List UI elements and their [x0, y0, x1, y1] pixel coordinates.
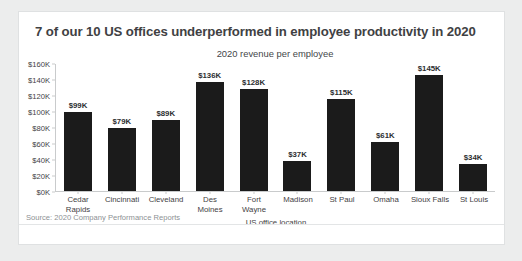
y-axis-tick-label: $120K — [28, 92, 50, 101]
bar-cell: $128K — [232, 64, 276, 191]
x-axis-tick-mark — [385, 191, 386, 194]
bar-value-label: $34K — [451, 153, 495, 162]
bar[interactable] — [459, 164, 487, 191]
bar-value-label: $115K — [319, 88, 363, 97]
bar-value-label: $99K — [56, 101, 100, 110]
bar[interactable] — [240, 89, 268, 191]
x-axis-category-label: St Louis — [452, 195, 496, 214]
y-axis-tick-label: $160K — [28, 60, 50, 69]
page-title: 7 of our 10 US offices underperformed in… — [35, 24, 495, 39]
y-axis-tick-mark — [52, 128, 55, 129]
bar-cell: $115K — [319, 64, 363, 191]
bar[interactable] — [327, 99, 355, 191]
bar-cell: $37K — [276, 64, 320, 191]
x-axis-tick-mark — [253, 191, 254, 194]
bar-cell: $99K — [56, 64, 100, 191]
bar[interactable] — [64, 112, 92, 191]
x-axis-tick-mark — [429, 191, 430, 194]
x-axis-category-label: Omaha — [364, 195, 408, 214]
bar[interactable] — [283, 161, 311, 191]
x-axis-tick-mark — [209, 191, 210, 194]
y-axis-tick-mark — [52, 80, 55, 81]
category-label-line: Moines — [188, 205, 232, 215]
category-label-line: Cincinnati — [100, 195, 144, 205]
y-axis-tick-mark — [52, 64, 55, 65]
bar-cell: $89K — [144, 64, 188, 191]
chart-card: 7 of our 10 US offices underperformed in… — [18, 11, 505, 245]
bar-value-label: $61K — [363, 131, 407, 140]
y-axis-tick-label: $100K — [28, 108, 50, 117]
bar-value-label: $89K — [144, 109, 188, 118]
bar-value-label: $37K — [276, 150, 320, 159]
y-axis-tick-mark — [52, 192, 55, 193]
bar[interactable] — [371, 142, 399, 191]
x-axis-category-labels: CedarRapidsCincinnatiClevelandDesMoinesF… — [56, 195, 496, 214]
footer-divider — [19, 224, 504, 225]
x-axis-category-label: St Paul — [320, 195, 364, 214]
category-label-line: Fort — [232, 195, 276, 205]
category-label-line: St Louis — [452, 195, 496, 205]
x-axis-tick-mark — [121, 191, 122, 194]
bar[interactable] — [196, 82, 224, 191]
y-axis-tick-mark — [52, 160, 55, 161]
source-note: Source: 2020 Company Performance Reports — [26, 213, 180, 222]
x-axis-tick-mark — [473, 191, 474, 194]
x-axis-category-label: FortWayne — [232, 195, 276, 214]
chart-subtitle: 2020 revenue per employee — [55, 48, 495, 59]
bar-value-label: $79K — [100, 117, 144, 126]
category-label-line: Wayne — [232, 205, 276, 215]
y-axis-tick-label: $80K — [32, 124, 50, 133]
bar-value-label: $145K — [407, 64, 451, 73]
bar-cell: $136K — [188, 64, 232, 191]
bar-cell: $34K — [451, 64, 495, 191]
x-axis-category-label: DesMoines — [188, 195, 232, 214]
y-axis-tick-label: $140K — [28, 76, 50, 85]
plot-area: $0K$20K$40K$60K$80K$100K$120K$140K$160K … — [55, 64, 495, 192]
x-axis-tick-mark — [341, 191, 342, 194]
y-axis-tick-label: $0K — [36, 188, 50, 197]
x-axis-category-label: Cincinnati — [100, 195, 144, 214]
category-label-line: Madison — [276, 195, 320, 205]
category-label-line: Cedar — [56, 195, 100, 205]
y-axis-tick-label: $20K — [32, 172, 50, 181]
category-label-line: Des — [188, 195, 232, 205]
bar-cell: $61K — [363, 64, 407, 191]
y-axis-tick-mark — [52, 144, 55, 145]
bar[interactable] — [108, 128, 136, 191]
category-label-line: Sioux Falls — [408, 195, 452, 205]
y-axis-tick-mark — [52, 96, 55, 97]
x-axis-category-label: Sioux Falls — [408, 195, 452, 214]
bar[interactable] — [415, 75, 443, 191]
bar-value-label: $128K — [232, 78, 276, 87]
x-axis-category-label: Madison — [276, 195, 320, 214]
bar-value-label: $136K — [188, 71, 232, 80]
x-axis-tick-mark — [77, 191, 78, 194]
category-label-line: Cleveland — [144, 195, 188, 205]
y-axis-tick-mark — [52, 176, 55, 177]
bar-series: $99K$79K$89K$136K$128K$37K$115K$61K$145K… — [56, 64, 495, 191]
x-axis-tick-mark — [165, 191, 166, 194]
bar[interactable] — [152, 120, 180, 191]
category-label-line: Omaha — [364, 195, 408, 205]
bar-cell: $145K — [407, 64, 451, 191]
x-axis-category-label: CedarRapids — [56, 195, 100, 214]
category-label-line: St Paul — [320, 195, 364, 205]
bar-cell: $79K — [100, 64, 144, 191]
x-axis-category-label: Cleveland — [144, 195, 188, 214]
x-axis-tick-mark — [297, 191, 298, 194]
y-axis-tick-label: $60K — [32, 140, 50, 149]
y-axis-tick-mark — [52, 112, 55, 113]
y-axis-tick-label: $40K — [32, 156, 50, 165]
